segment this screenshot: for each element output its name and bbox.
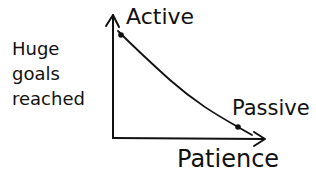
active-point [118, 32, 124, 38]
y-axis-label-line: reached [12, 86, 85, 111]
passive-point [235, 124, 241, 130]
x-axis-label: Patience [177, 147, 279, 171]
x-axis [113, 138, 264, 139]
active-label: Active [126, 6, 194, 28]
y-axis-label-line: Huge [12, 36, 85, 61]
passive-label: Passive [232, 98, 310, 119]
y-axis-label-line: goals [12, 61, 85, 86]
y-axis-label: Huge goals reached [12, 36, 85, 111]
